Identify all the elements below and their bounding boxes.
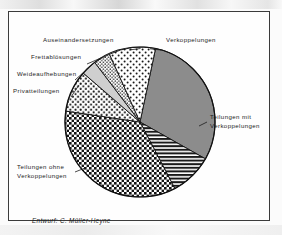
- label-teilungen-ohne-verkoppelungen: Teilungen ohne Verkoppelungen: [17, 162, 67, 180]
- label-teilungen-mit-verkoppelungen: Teilungen mit Verkoppelungen: [210, 112, 260, 130]
- label-teilungen-mit-line2: Verkoppelungen: [210, 121, 260, 130]
- label-weideaufhebungen: Weideaufhebungen: [17, 70, 76, 79]
- label-auseinandersetzungen: Auseinandersetzungen: [43, 36, 114, 45]
- scanned-figure-page: Auseinandersetzungen Frettablösungen Wei…: [0, 0, 282, 235]
- pie-slice-group: [65, 47, 215, 197]
- label-teilungen-ohne-line2: Verkoppelungen: [17, 171, 67, 180]
- label-teilungen-mit-line1: Teilungen mit: [210, 112, 260, 121]
- credit-attribution: Entwurf: C. Müller-Heyne: [32, 217, 111, 224]
- label-verkoppelungen: Verkoppelungen: [166, 36, 216, 45]
- figure-frame: Auseinandersetzungen Frettablösungen Wei…: [8, 11, 270, 221]
- label-frettabloesungen: Frettablösungen: [31, 53, 81, 62]
- scan-noise-top-edge: [0, 0, 282, 9]
- label-privatteilungen: Privatteilungen: [13, 87, 60, 96]
- scan-noise-bottom-edge: [0, 225, 282, 235]
- label-teilungen-ohne-line1: Teilungen ohne: [17, 162, 67, 171]
- pie-chart-area: Auseinandersetzungen Frettablösungen Wei…: [9, 12, 269, 220]
